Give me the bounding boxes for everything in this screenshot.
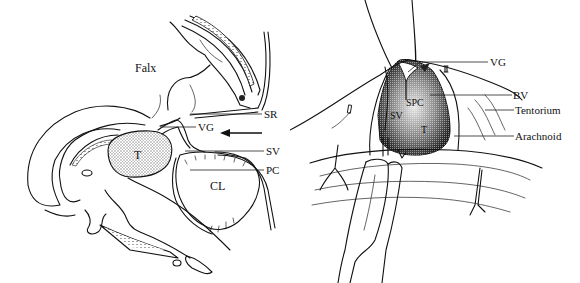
label-vg-operative: VG bbox=[490, 57, 506, 68]
label-arachnoid: Arachnoid bbox=[515, 131, 561, 142]
label-tentorium: Tentorium bbox=[515, 105, 561, 116]
label-tumor-t: T bbox=[134, 150, 141, 161]
label-sv: SV bbox=[266, 146, 280, 157]
label-falx: Falx bbox=[135, 63, 156, 74]
label-spc: SPC bbox=[406, 97, 424, 108]
label-bv: BV bbox=[513, 90, 528, 101]
sagittal-diagram-panel: Falx SR VG SV PC T CL bbox=[0, 0, 290, 283]
label-sr: SR bbox=[264, 109, 277, 120]
sagittal-drawing bbox=[0, 0, 290, 283]
label-sv-operative: SV bbox=[390, 110, 403, 121]
label-pc: PC bbox=[266, 165, 279, 176]
label-tumor-t-operative: T bbox=[421, 124, 427, 135]
label-cl: CL bbox=[210, 181, 225, 192]
approach-arrow-icon bbox=[220, 129, 230, 137]
label-vg: VG bbox=[198, 122, 214, 133]
operative-view-panel: VG BV Tentorium Arachnoid SPC SV T bbox=[290, 0, 580, 283]
